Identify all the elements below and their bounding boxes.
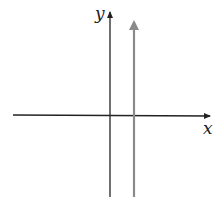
x-axis-label: x [203,118,213,138]
coordinate-plane: y x [0,0,218,197]
x-axis [13,115,210,116]
y-axis-label: y [94,3,105,23]
